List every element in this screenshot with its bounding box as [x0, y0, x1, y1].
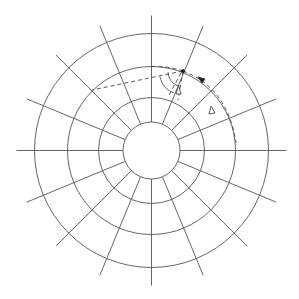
trajectory-overlay: [92, 66, 236, 143]
point-p-marker: [181, 69, 184, 72]
grid-ray-6: [172, 171, 247, 246]
grid-ray-7: [162, 177, 203, 275]
grid-ray-15: [100, 26, 141, 124]
grid-ray-10: [56, 171, 131, 246]
open-arrow-icon: [209, 106, 215, 114]
grid-ray-9: [100, 177, 141, 275]
grid-ray-2: [172, 55, 247, 130]
dashed-curve-right: [183, 71, 236, 143]
angle-arc-outer: [168, 72, 178, 86]
grid-circle-0: [123, 122, 180, 179]
grid-ray-11: [27, 161, 125, 202]
polar-grid-diagram: [0, 0, 299, 299]
grid-ray-14: [56, 55, 131, 130]
dashed-arc-top: [152, 66, 184, 71]
grid-ray-3: [178, 99, 276, 140]
polar-grid: [17, 16, 287, 286]
grid-ray-13: [27, 99, 125, 140]
grid-ray-5: [178, 161, 276, 202]
angle-arc-inner: [160, 77, 174, 93]
